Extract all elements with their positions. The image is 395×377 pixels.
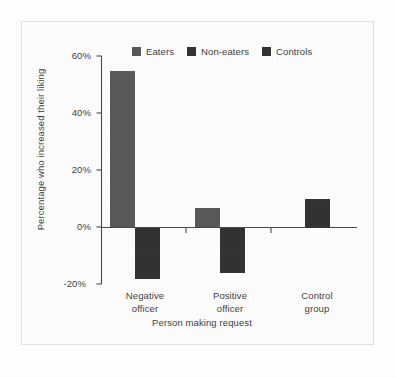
- legend-label: Eaters: [146, 46, 174, 57]
- legend-swatch-icon: [262, 47, 271, 56]
- chart-figure-frame: Eaters Non-eaters Controls 60% 40% 20% 0…: [21, 21, 374, 345]
- x-tick-line2: officer: [100, 303, 190, 316]
- x-tick-line1: Positive: [185, 290, 275, 303]
- x-tick-label-control-group: Control group: [272, 290, 362, 315]
- legend-label: Non-eaters: [201, 46, 249, 57]
- bar-controls-control-group: [305, 199, 330, 228]
- y-axis-title: Percentage who increased their liking: [35, 58, 46, 242]
- y-tick-label-40: 40%: [53, 107, 91, 118]
- chart-legend: Eaters Non-eaters Controls: [132, 46, 312, 57]
- x-tick-line1: Control: [272, 290, 362, 303]
- x-tick-line1: Negative: [100, 290, 190, 303]
- legend-label: Controls: [276, 46, 312, 57]
- chart-plot-area: Eaters Non-eaters Controls 60% 40% 20% 0…: [22, 22, 375, 346]
- y-tick-label-0: 0%: [53, 221, 91, 232]
- legend-item-non-eaters: Non-eaters: [187, 46, 249, 57]
- x-tick-label-positive-officer: Positive officer: [185, 290, 275, 315]
- y-tick-label-20: 20%: [53, 164, 91, 175]
- bar-non-eaters-positive-officer: [220, 228, 245, 274]
- bar-eaters-negative-officer: [110, 71, 135, 228]
- x-tick-label-negative-officer: Negative officer: [100, 290, 190, 315]
- bar-eaters-positive-officer: [195, 208, 220, 228]
- x-tick-line2: group: [272, 303, 362, 316]
- bar-non-eaters-negative-officer: [135, 228, 160, 279]
- legend-swatch-icon: [187, 47, 196, 56]
- legend-item-controls: Controls: [262, 46, 312, 57]
- y-tick-label-neg20: -20%: [48, 278, 86, 289]
- y-tick-label-60: 60%: [53, 50, 91, 61]
- legend-item-eaters: Eaters: [132, 46, 174, 57]
- x-tick-line2: officer: [185, 303, 275, 316]
- legend-swatch-icon: [132, 47, 141, 56]
- x-axis-title: Person making request: [62, 317, 342, 328]
